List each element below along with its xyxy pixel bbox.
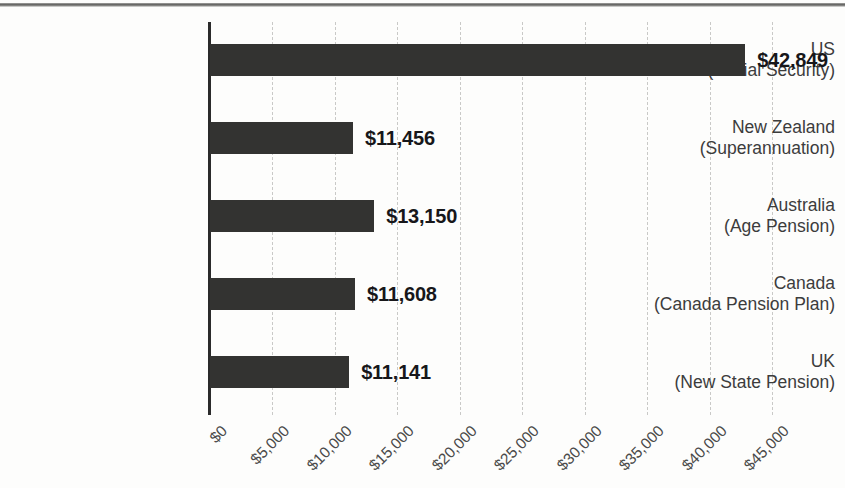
x-tick-label: $5,000 xyxy=(247,422,293,468)
bar-value-label: $11,456 xyxy=(365,122,435,154)
bar-value-label: $13,150 xyxy=(386,200,457,232)
bar-chart: US(Social Security)New Zealand(Superannu… xyxy=(0,0,845,488)
x-tick-label: $30,000 xyxy=(553,422,605,474)
x-tick-label: $10,000 xyxy=(303,422,355,474)
bar xyxy=(210,356,349,388)
scan-artifact-line-secondary xyxy=(0,6,845,7)
bar xyxy=(210,44,745,76)
x-tick-label: $35,000 xyxy=(615,422,667,474)
bar-value-label: $11,141 xyxy=(361,356,431,388)
x-tick-label: $45,000 xyxy=(740,422,792,474)
bars: $42,849$11,456$13,150$11,608$11,141 xyxy=(210,22,790,415)
x-tick-label: $25,000 xyxy=(491,422,543,474)
x-tick-label: $0 xyxy=(206,422,231,447)
bar xyxy=(210,122,353,154)
bar-value-label: $11,608 xyxy=(367,278,437,310)
bar xyxy=(210,200,374,232)
bar-value-label: $42,849 xyxy=(757,44,828,76)
x-tick-label: $40,000 xyxy=(678,422,730,474)
bar xyxy=(210,278,355,310)
x-tick-label: $20,000 xyxy=(428,422,480,474)
x-tick-label: $15,000 xyxy=(366,422,418,474)
